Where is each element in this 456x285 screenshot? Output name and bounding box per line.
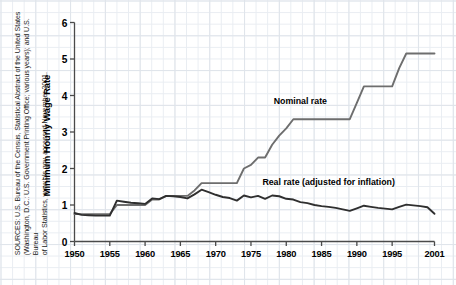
plot-area: Minimum Hourly Wage Rate 0123456 1950195…: [0, 0, 456, 285]
chart-figure: SOURCES: U.S. Bureau of the Census, Stat…: [0, 0, 456, 285]
y-tick-label: 2: [48, 163, 68, 174]
chart-svg: [0, 0, 456, 285]
x-tick-label: 1995: [372, 249, 412, 259]
y-tick-label: 4: [48, 90, 68, 101]
x-tick-label: 1975: [231, 249, 271, 259]
x-tick-label: 1980: [266, 249, 306, 259]
x-tick-label: 1955: [90, 249, 130, 259]
y-tick-label: 1: [48, 200, 68, 211]
x-tick-label: 1965: [160, 249, 200, 259]
x-tick-label: 1970: [196, 249, 236, 259]
y-tick-label: 6: [48, 17, 68, 28]
x-tick-label: 1990: [337, 249, 377, 259]
x-tick-label: 1985: [302, 249, 342, 259]
series-label: Nominal rate: [274, 96, 327, 106]
y-tick-label: 5: [48, 54, 68, 65]
y-tick-label: 3: [48, 127, 68, 138]
x-tick-label: 1960: [125, 249, 165, 259]
x-tick-label: 1950: [55, 249, 95, 259]
x-tick-label: 2001: [415, 249, 455, 259]
series-label: Real rate (adjusted for inflation): [262, 177, 394, 187]
y-tick-label: 0: [48, 236, 68, 247]
